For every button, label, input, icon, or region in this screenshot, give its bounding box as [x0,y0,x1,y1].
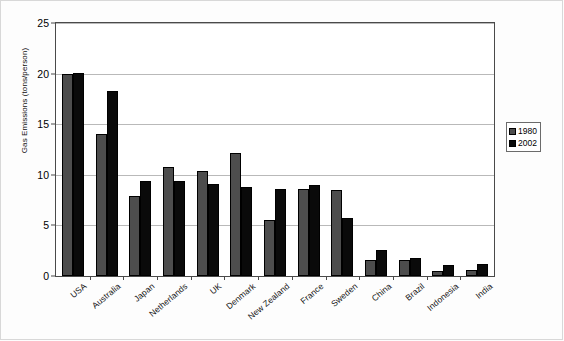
x-axis-label: Sweden [329,281,359,309]
bar [477,264,488,276]
bar-group [460,23,494,276]
bar [62,74,73,276]
bar [342,218,353,276]
x-axis-tick-mark [326,276,327,280]
chart-legend: 19802002 [506,122,541,152]
bar-chart: Gas Emissions (tons/person) 0510152025 U… [0,0,564,341]
y-axis-title: Gas Emissions (tons/person) [20,11,29,191]
bar [443,265,454,276]
x-axis-tick-mark [157,276,158,280]
legend-entry: 1980 [509,125,537,137]
bar-group [157,23,191,276]
bar [140,181,151,276]
bar [432,271,443,276]
bar-group [258,23,292,276]
x-axis-tick-mark [191,276,192,280]
bar-group [359,23,393,276]
bar [275,189,286,276]
bar [376,250,387,276]
x-axis-label: USA [68,281,88,300]
bar [331,190,342,276]
bar [197,171,208,276]
bar [107,91,118,276]
bar [96,134,107,276]
bar [264,220,275,276]
bar-group [191,23,225,276]
bar [73,73,84,276]
x-axis-label: Japan [131,281,156,304]
x-axis-labels: USAAustraliaJapanNetherlandsUKDenmarkNew… [55,281,495,339]
x-axis-label: France [298,281,325,306]
x-axis-tick-mark [427,276,428,280]
bar-group [427,23,461,276]
x-axis-label: UK [208,281,224,296]
x-axis-label: Australia [90,281,122,311]
x-axis-tick-mark [359,276,360,280]
bar [466,270,477,276]
x-axis-tick-mark [123,276,124,280]
bar [129,196,140,276]
legend-entry: 2002 [509,137,537,149]
legend-swatch-icon [509,128,516,135]
x-axis-tick-mark [393,276,394,280]
x-axis-tick-mark [292,276,293,280]
x-axis-label: Brazil [404,281,427,303]
bar-groups [56,23,494,276]
bar [365,260,376,276]
bar-group [56,23,90,276]
bar [230,153,241,276]
bar-group [90,23,124,276]
bar-group [393,23,427,276]
bar [241,187,252,276]
legend-label: 2002 [518,139,537,148]
bar [298,189,309,276]
x-axis-tick-mark [258,276,259,280]
x-axis-label: Indonesia [425,281,460,313]
plot-area: 0510152025 [55,22,495,277]
bar [174,181,185,276]
bar [309,185,320,276]
x-axis-tick-mark [460,276,461,280]
bar-group [123,23,157,276]
bar-group [224,23,258,276]
legend-swatch-icon [509,140,516,147]
bar [163,167,174,276]
legend-label: 1980 [518,127,537,136]
bar-group [292,23,326,276]
x-axis-label: China [369,281,393,303]
bar [399,260,410,276]
bar [208,184,219,276]
bar [410,258,421,276]
x-axis-label: India [474,281,495,301]
x-axis-tick-mark [90,276,91,280]
bar-group [326,23,360,276]
x-axis-tick-mark [224,276,225,280]
